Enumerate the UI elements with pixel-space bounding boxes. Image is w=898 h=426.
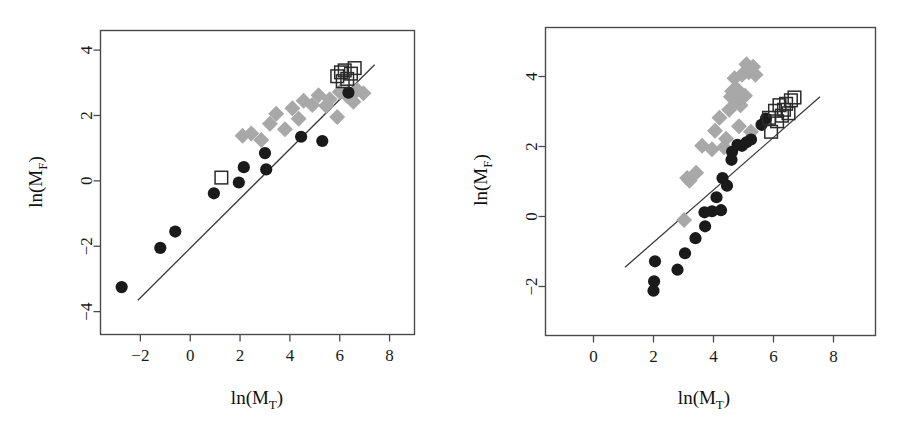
data-point-circle xyxy=(745,133,757,145)
data-point-diamond xyxy=(329,109,345,125)
x-tick-label: 4 xyxy=(709,347,718,366)
x-axis-title-right: ln(MT) xyxy=(678,387,730,412)
data-point-circle xyxy=(295,131,307,143)
data-point-circle xyxy=(238,161,250,173)
y-axis-title-right: ln(MF) xyxy=(470,154,495,206)
x-axis-title-left: ln(MT) xyxy=(231,387,283,412)
x-tick-label: −2 xyxy=(131,346,149,365)
x-tick-label: 6 xyxy=(335,346,344,365)
y-tick-label: −2 xyxy=(77,237,96,255)
x-tick-label: 2 xyxy=(236,346,245,365)
chart-panel-right: 420−2 02468 ln(MT) ln(MF) xyxy=(449,0,898,426)
data-point-circle xyxy=(260,163,272,175)
data-point-circle xyxy=(259,147,271,159)
y-axis-ticks-left: 420−2−4 xyxy=(77,45,101,320)
data-point-circle xyxy=(116,281,128,293)
x-tick-label: 0 xyxy=(589,347,598,366)
x-tick-label: 4 xyxy=(286,346,295,365)
y-axis-title-left: ln(MF) xyxy=(25,156,50,208)
y-tick-label: 4 xyxy=(77,45,96,54)
series-black-circles-left xyxy=(116,87,355,294)
data-point-circle xyxy=(671,264,683,276)
y-tick-label: 4 xyxy=(522,72,541,81)
trend-line xyxy=(138,65,375,300)
data-point-circle xyxy=(710,191,722,203)
x-axis-ticks-left: −202468 xyxy=(131,335,394,365)
data-point-circle xyxy=(169,225,181,237)
data-point-circle xyxy=(233,176,245,188)
y-tick-label: 2 xyxy=(77,111,96,120)
data-point-circle xyxy=(208,187,220,199)
x-axis-ticks-right: 02468 xyxy=(589,336,838,366)
y-tick-label: −2 xyxy=(522,277,541,295)
scatter-plot-right: 420−2 02468 ln(MT) ln(MF) xyxy=(449,0,898,426)
data-point-circle xyxy=(154,242,166,254)
data-point-circle xyxy=(316,135,328,147)
plot-frame-right xyxy=(546,28,876,336)
x-tick-label: 2 xyxy=(649,347,658,366)
x-tick-label: 8 xyxy=(829,347,838,366)
data-point-circle xyxy=(715,204,727,216)
data-point-circle xyxy=(699,220,711,232)
x-tick-label: 0 xyxy=(186,346,195,365)
data-point-circle xyxy=(342,87,354,99)
y-tick-label: 2 xyxy=(522,142,541,151)
data-point-circle xyxy=(648,275,660,287)
chart-panel-left: 420−2−4 −202468 ln(MT) ln(MF) xyxy=(0,0,449,426)
y-axis-ticks-right: 420−2 xyxy=(522,72,546,296)
figure-container: 420−2−4 −202468 ln(MT) ln(MF) 420−2 0246… xyxy=(0,0,898,426)
data-point-circle xyxy=(649,255,661,267)
y-tick-label: 0 xyxy=(77,177,96,186)
scatter-plot-left: 420−2−4 −202468 ln(MT) ln(MF) xyxy=(0,0,449,426)
data-point-circle xyxy=(721,180,733,192)
data-point-square xyxy=(215,171,228,184)
data-point-circle xyxy=(689,232,701,244)
data-point-circle xyxy=(679,247,691,259)
reference-line-left xyxy=(138,65,375,300)
plot-frame-left xyxy=(101,31,415,335)
data-point-diamond xyxy=(277,121,293,137)
series-black-circles-right xyxy=(647,112,772,296)
y-tick-label: 0 xyxy=(522,212,541,221)
y-tick-label: −4 xyxy=(77,302,96,321)
x-tick-label: 6 xyxy=(769,347,778,366)
data-point-diamond xyxy=(676,212,692,228)
x-tick-label: 8 xyxy=(385,346,394,365)
